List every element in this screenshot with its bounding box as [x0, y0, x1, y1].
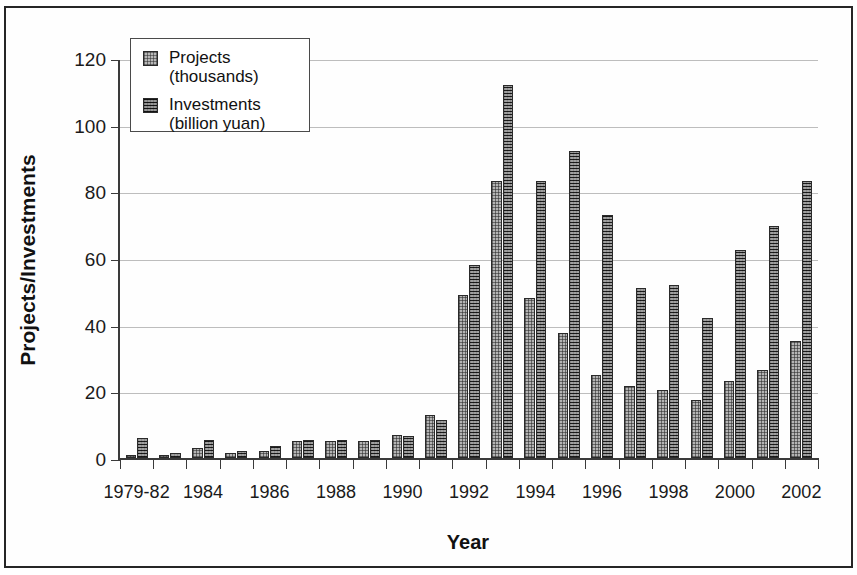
x-axis-tick	[585, 458, 586, 469]
bar-investments	[503, 85, 514, 458]
y-axis-tick	[111, 60, 120, 61]
x-axis-tick-label: 1988	[316, 482, 356, 503]
bar-group	[353, 60, 386, 458]
bar-group	[752, 60, 785, 458]
bar-projects	[225, 453, 236, 458]
x-axis-tick	[220, 458, 221, 469]
bar-projects	[325, 441, 336, 458]
bar-projects	[757, 370, 768, 458]
x-axis-tick	[486, 458, 487, 469]
x-axis-tick-label: 1979-82	[104, 482, 170, 503]
bar-projects	[558, 333, 569, 458]
bar-investments	[702, 318, 713, 458]
bar-group	[685, 60, 718, 458]
x-axis-tick	[452, 458, 453, 469]
y-axis-tick-label: 60	[85, 249, 106, 271]
x-axis-tick	[386, 458, 387, 469]
bar-investments	[170, 453, 181, 458]
bar-investments	[237, 451, 248, 458]
x-axis-tick	[353, 458, 354, 469]
y-axis-tick-label: 100	[74, 116, 106, 138]
y-axis-tick	[111, 260, 120, 261]
chart-legend: Projects (thousands) Investments (billio…	[130, 38, 310, 132]
bar-group	[652, 60, 685, 458]
legend-unit-projects: (thousands)	[169, 67, 259, 86]
chart-page: Projects/Investments Year 02040608010012…	[0, 0, 857, 575]
bar-projects	[691, 400, 702, 458]
bar-projects	[159, 455, 170, 458]
legend-unit-investments: (billion yuan)	[169, 114, 265, 133]
y-axis-tick-label: 80	[85, 182, 106, 204]
bar-investments	[769, 226, 780, 458]
bar-projects	[591, 375, 602, 458]
x-axis-tick-label: 1996	[582, 482, 622, 503]
bar-projects	[192, 448, 203, 458]
y-axis-tick	[111, 193, 120, 194]
x-axis-tick	[752, 458, 753, 469]
bar-investments	[536, 181, 547, 458]
bar-projects	[724, 381, 735, 458]
x-axis-tick	[652, 458, 653, 469]
figure-frame: Projects/Investments Year 02040608010012…	[4, 6, 853, 568]
bar-projects	[392, 435, 403, 458]
x-axis-tick-label: 1994	[515, 482, 555, 503]
bar-projects	[657, 390, 668, 458]
bar-investments	[569, 151, 580, 458]
y-axis-title: Projects/Investments	[16, 154, 40, 365]
bar-projects	[790, 341, 801, 458]
bar-investments	[270, 446, 281, 458]
legend-item-projects: Projects (thousands)	[143, 48, 299, 86]
x-axis-tick	[153, 458, 154, 469]
y-axis-tick-label: 40	[85, 316, 106, 338]
x-axis-tick-label: 2000	[715, 482, 755, 503]
x-axis-tick	[718, 458, 719, 469]
bar-group	[552, 60, 585, 458]
bar-group	[386, 60, 419, 458]
x-axis-title: Year	[118, 531, 818, 554]
bar-investments	[303, 440, 314, 458]
bar-investments	[403, 436, 414, 458]
y-axis-tick	[111, 393, 120, 394]
bar-investments	[204, 440, 215, 458]
y-axis-tick-label: 120	[74, 49, 106, 71]
bar-investments	[436, 420, 447, 458]
bar-group	[718, 60, 751, 458]
x-axis-tick	[419, 458, 420, 469]
x-axis-tick	[186, 458, 187, 469]
bar-projects	[425, 415, 436, 458]
bar-group	[519, 60, 552, 458]
x-axis-tick	[552, 458, 553, 469]
bar-projects	[259, 451, 270, 458]
legend-item-investments: Investments (billion yuan)	[143, 95, 299, 133]
bar-projects	[126, 455, 137, 458]
bar-group	[486, 60, 519, 458]
x-axis-tick	[120, 458, 121, 469]
bar-investments	[370, 440, 381, 458]
bar-group	[585, 60, 618, 458]
bar-investments	[602, 215, 613, 458]
x-axis-tick	[619, 458, 620, 469]
x-axis-tick	[785, 458, 786, 469]
bar-investments	[337, 440, 348, 458]
x-axis-tick	[286, 458, 287, 469]
x-axis-tick	[253, 458, 254, 469]
bar-projects	[358, 441, 369, 458]
x-axis-tick	[685, 458, 686, 469]
bar-group	[419, 60, 452, 458]
bar-projects	[491, 181, 502, 458]
bar-investments	[636, 288, 647, 458]
x-axis-tick-label: 2002	[781, 482, 821, 503]
bar-projects	[458, 295, 469, 458]
legend-label-projects: Projects	[169, 48, 230, 67]
legend-label-investments: Investments	[169, 95, 261, 114]
legend-swatch-investments-icon	[143, 98, 158, 113]
bar-group	[619, 60, 652, 458]
y-axis-tick	[111, 127, 120, 128]
x-axis-tick	[818, 458, 819, 469]
y-axis-tick-label: 20	[85, 382, 106, 404]
bar-projects	[292, 441, 303, 458]
bar-group	[319, 60, 352, 458]
y-axis-tick	[111, 460, 120, 461]
bar-projects	[624, 386, 635, 458]
x-axis-tick-label: 1990	[382, 482, 422, 503]
